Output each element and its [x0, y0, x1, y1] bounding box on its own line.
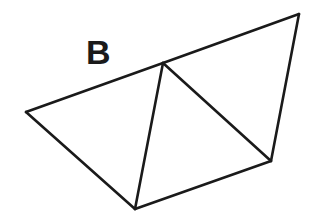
- triangle-net-figure: [0, 0, 318, 211]
- edge-top-middle-to-bottom-right: [163, 63, 271, 161]
- edge-top-right-to-bottom-right: [271, 14, 299, 161]
- edge-bottom-to-left: [26, 112, 135, 209]
- figure-label: B: [86, 35, 111, 69]
- edge-top-middle-to-bottom: [135, 63, 163, 209]
- edge-top-middle-to-top-right: [163, 14, 299, 63]
- diagram-canvas: B: [0, 0, 318, 211]
- edge-bottom-right-to-bottom: [135, 161, 271, 209]
